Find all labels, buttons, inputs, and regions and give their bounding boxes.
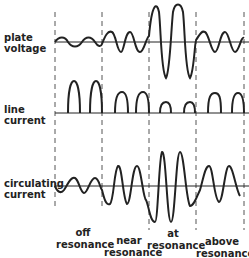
row-label-plate-voltage: plate voltage: [4, 32, 46, 54]
line-current-waveform: [68, 81, 244, 113]
label-line: plate: [4, 32, 46, 43]
label-line: resonance: [196, 248, 248, 258]
circulating-current-waveform: [55, 152, 240, 222]
column-label-above-resonance: above resonance: [196, 236, 248, 258]
label-line: voltage: [4, 43, 46, 54]
label-line: circulating: [4, 178, 64, 189]
label-line: resonance: [147, 240, 199, 252]
label-line: at: [147, 228, 199, 240]
baselines: [55, 42, 249, 186]
row-label-line-current: line current: [4, 104, 46, 126]
label-line: line: [4, 104, 46, 115]
label-line: current: [4, 189, 64, 200]
row-label-circulating-current: circulating current: [4, 178, 64, 200]
label-line: above: [196, 236, 248, 248]
label-line: resonance: [56, 239, 110, 251]
column-label-off-resonance: off resonance: [56, 227, 110, 251]
column-label-at-resonance: at resonance: [147, 228, 199, 252]
label-line: off: [56, 227, 110, 239]
label-line: current: [4, 115, 46, 126]
